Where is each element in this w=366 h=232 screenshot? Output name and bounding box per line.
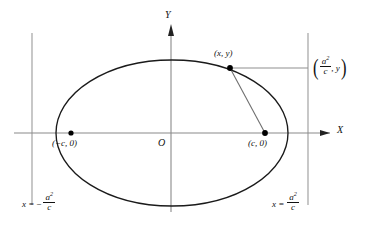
- y-axis-arrowhead: [168, 24, 174, 36]
- x-axis-label: X: [337, 125, 343, 135]
- directrix-point-close-paren: ): [341, 58, 347, 79]
- directrix-point-second-coord: , y: [331, 64, 340, 73]
- right-focus-label: (c, 0): [248, 139, 267, 148]
- ellipse-point-label: (x, y): [214, 49, 232, 58]
- y-axis-label: Y: [165, 10, 171, 20]
- left-directrix-minus-sign: −: [34, 200, 43, 209]
- directrix-point-open-paren: (: [313, 58, 319, 79]
- left-directrix-equation: x =−a2c: [22, 191, 55, 213]
- left-focus-label: (−c, 0): [52, 139, 77, 148]
- ellipse-point-dot: [227, 65, 233, 71]
- directrix-point-label: (a2c, y): [312, 55, 347, 79]
- x-axis-arrowhead: [320, 130, 330, 136]
- ellipse-directrix-diagram: Y X O (−c, 0) (c, 0) (x, y) (a2c, y) x =…: [0, 0, 366, 232]
- right-directrix-denominator: c: [287, 203, 299, 212]
- directrix-point-denominator: c: [320, 67, 332, 76]
- right-directrix-lhs: x =: [272, 200, 284, 209]
- right-directrix-equation: x =a2c: [272, 191, 299, 213]
- origin-label: O: [158, 138, 165, 148]
- left-directrix-fraction: a2c: [43, 191, 55, 213]
- right-focus-dot: [262, 130, 268, 136]
- left-directrix-denominator: c: [43, 203, 55, 212]
- right-directrix-fraction: a2c: [287, 191, 299, 213]
- directrix-point-fraction: a2c: [320, 55, 332, 77]
- left-focus-dot: [68, 130, 73, 135]
- left-directrix-lhs: x =: [22, 200, 34, 209]
